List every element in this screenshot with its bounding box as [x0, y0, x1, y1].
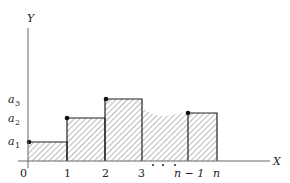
y-axis-label: Y [27, 12, 36, 25]
y-tick-a3: a 3 [8, 93, 20, 108]
svg-text:2: 2 [15, 118, 20, 127]
bar-3 [105, 99, 142, 161]
svg-text:3: 3 [15, 99, 20, 108]
hatched-area [28, 99, 217, 161]
dot-a3 [104, 97, 109, 102]
x-tick-1: 1 [64, 167, 71, 180]
bar-2 [67, 118, 105, 161]
svg-text:a: a [8, 112, 15, 125]
svg-text:1: 1 [15, 141, 20, 150]
x-tick-0: 0 [20, 167, 27, 180]
x-tick-n-minus-1: n − 1 [174, 167, 204, 180]
dot-an [186, 111, 191, 116]
dot-a1 [27, 140, 32, 145]
y-tick-a1: a 1 [8, 135, 20, 150]
svg-text:a: a [8, 135, 15, 148]
svg-text:a: a [8, 93, 15, 106]
y-tick-a2: a 2 [8, 112, 20, 127]
x-tick-n: n [213, 167, 220, 180]
bar-n [188, 113, 217, 161]
x-tick-3: 3 [138, 167, 145, 180]
step-function-diagram: Y X 0 1 2 3 n − 1 n a 3 a 2 a 1 [0, 0, 290, 183]
dot-a2 [65, 116, 70, 121]
ellipsis-dots [152, 164, 176, 166]
bar-1 [28, 142, 67, 161]
wavy-continuation [142, 108, 188, 161]
x-tick-2: 2 [102, 167, 109, 180]
x-axis-label: X [272, 155, 282, 168]
